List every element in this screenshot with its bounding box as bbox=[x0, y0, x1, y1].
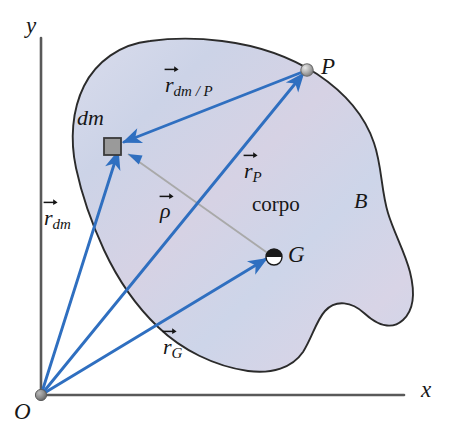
figure-canvas: y x O dm P G corpo B r dm / P r P r bbox=[0, 0, 450, 444]
vector-label-r-p: r P bbox=[244, 158, 262, 186]
vector-label-r-dm: r dm bbox=[44, 205, 71, 233]
g-centroid-marker bbox=[266, 249, 282, 265]
vector-label-subscript: P bbox=[253, 169, 262, 186]
dm-label: dm bbox=[77, 107, 104, 129]
vector-label-subscript: dm bbox=[53, 216, 71, 233]
vector-label-rho: ρ bbox=[160, 198, 171, 224]
g-label: G bbox=[288, 243, 305, 266]
vector-label-base: r bbox=[165, 72, 174, 98]
vector-label-base: r bbox=[44, 205, 53, 231]
origin-label: O bbox=[14, 400, 31, 423]
vector-label-subscript: G bbox=[172, 345, 183, 362]
p-marker bbox=[301, 64, 313, 76]
body-name-label: corpo bbox=[252, 194, 300, 215]
vector-label-r-g: r G bbox=[163, 334, 182, 362]
origin-marker bbox=[35, 389, 46, 400]
dm-marker bbox=[104, 138, 121, 155]
vector-label-r-dm-over-p: r dm / P bbox=[165, 72, 213, 100]
vector-label-base: r bbox=[244, 158, 253, 184]
y-axis-label: y bbox=[26, 14, 36, 37]
vector-label-base: ρ bbox=[160, 198, 171, 224]
vector-r-dm bbox=[41, 152, 118, 395]
body-letter-label: B bbox=[354, 190, 367, 212]
p-label: P bbox=[321, 55, 335, 78]
x-axis-label: x bbox=[421, 378, 431, 401]
vector-label-base: r bbox=[163, 334, 172, 360]
vector-label-subscript: dm / P bbox=[174, 83, 213, 100]
